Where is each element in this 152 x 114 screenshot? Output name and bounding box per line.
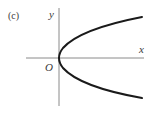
- origin-label: O: [45, 61, 53, 73]
- y-axis-label: y: [48, 8, 54, 20]
- panel-label: (c): [8, 10, 19, 22]
- parabola-diagram: (c) y x O: [0, 0, 152, 114]
- x-axis-label: x: [138, 43, 144, 55]
